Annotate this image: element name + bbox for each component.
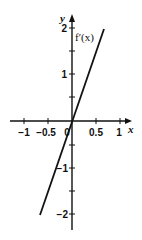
x-tick-label: 0.5 — [89, 127, 103, 138]
derivative-chart: −1 −0.5 0 0.5 1 x 2 1 −1 −2 y f′(x) — [0, 0, 142, 240]
y-tick-label: 2 — [61, 23, 67, 34]
y-axis-label: y — [58, 12, 65, 24]
x-tick-label: −1 — [18, 127, 30, 138]
y-tick-label: −2 — [57, 209, 69, 220]
function-label: f′(x) — [75, 31, 94, 44]
y-axis-arrow-icon — [69, 14, 75, 22]
x-tick-label: 1 — [116, 127, 122, 138]
y-tick-label: 1 — [61, 69, 67, 80]
x-axis-label: x — [127, 123, 134, 135]
y-tick-label: −1 — [57, 163, 69, 174]
x-tick-label: −0.5 — [36, 127, 56, 138]
